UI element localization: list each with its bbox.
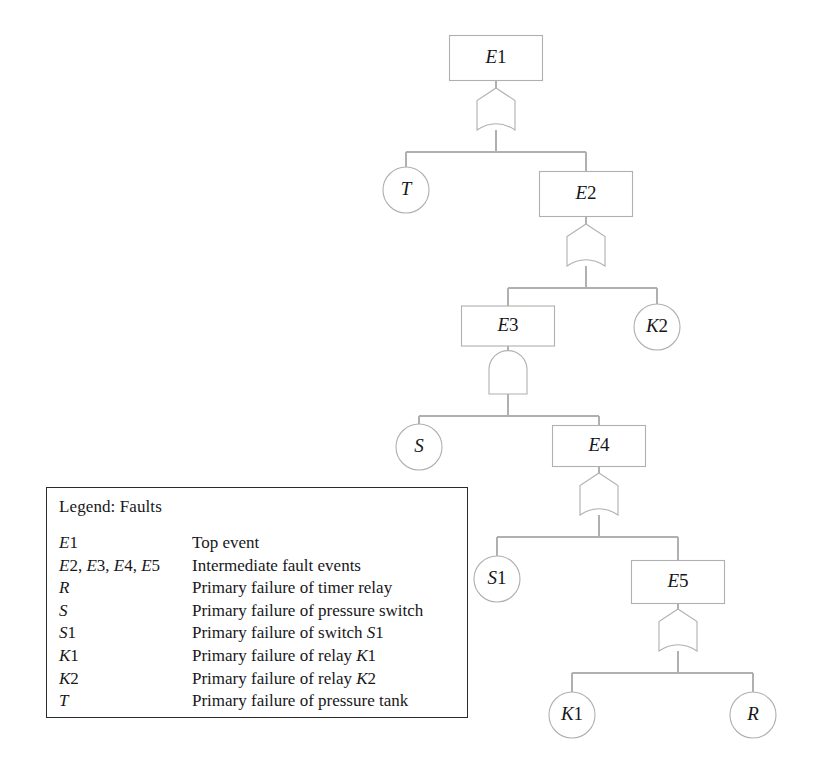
event-label-R: R (746, 703, 759, 724)
or-gate-G4 (580, 473, 618, 515)
or-gate-G2 (567, 224, 605, 266)
legend-rows: E1Top eventE2, E3, E4, E5Intermediate fa… (59, 533, 467, 714)
fault-tree-diagram: E1E2E3E4E5TK2SS1K1R Legend: Faults E1Top… (0, 0, 817, 771)
legend-box: Legend: Faults E1Top eventE2, E3, E4, E5… (46, 487, 468, 718)
legend-row: E1Top event (59, 533, 467, 556)
legend-description: Primary failure of relay K1 (192, 646, 376, 666)
legend-description: Top event (192, 533, 259, 553)
event-label-E3: E3 (496, 314, 518, 335)
legend-description: Primary failure of pressure tank (192, 691, 408, 711)
legend-row: S1Primary failure of switch S1 (59, 623, 467, 646)
event-label-E4: E4 (587, 434, 610, 455)
event-label-E1: E1 (484, 46, 506, 67)
event-label-E2: E2 (574, 182, 596, 203)
event-label-K2: K2 (645, 315, 668, 336)
legend-symbol: K1 (59, 646, 192, 666)
legend-symbol: E1 (59, 533, 192, 553)
event-label-K1: K1 (560, 703, 583, 724)
and-gate-G3 (489, 351, 527, 394)
legend-description: Primary failure of timer relay (192, 578, 392, 598)
legend-description: Intermediate fault events (192, 556, 361, 576)
event-label-E5: E5 (666, 570, 688, 591)
or-gate-G1 (477, 88, 515, 130)
legend-description: Primary failure of pressure switch (192, 601, 423, 621)
legend-row: E2, E3, E4, E5Intermediate fault events (59, 556, 467, 579)
legend-description: Primary failure of switch S1 (192, 623, 384, 643)
legend-symbol: R (59, 578, 192, 598)
event-label-S1: S1 (488, 567, 507, 588)
legend-row: SPrimary failure of pressure switch (59, 601, 467, 624)
legend-symbol: E2, E3, E4, E5 (59, 556, 192, 576)
legend-symbol: K2 (59, 669, 192, 689)
legend-symbol: T (59, 691, 192, 711)
legend-symbol: S (59, 601, 192, 621)
legend-row: RPrimary failure of timer relay (59, 578, 467, 601)
legend-row: K2Primary failure of relay K2 (59, 669, 467, 692)
legend-title: Legend: Faults (59, 497, 467, 517)
event-label-S: S (414, 435, 424, 456)
legend-row: TPrimary failure of pressure tank (59, 691, 467, 714)
legend-symbol: S1 (59, 623, 192, 643)
legend-row: K1Primary failure of relay K1 (59, 646, 467, 669)
or-gate-G5 (659, 609, 697, 651)
legend-description: Primary failure of relay K2 (192, 669, 376, 689)
event-label-T: T (401, 178, 413, 199)
